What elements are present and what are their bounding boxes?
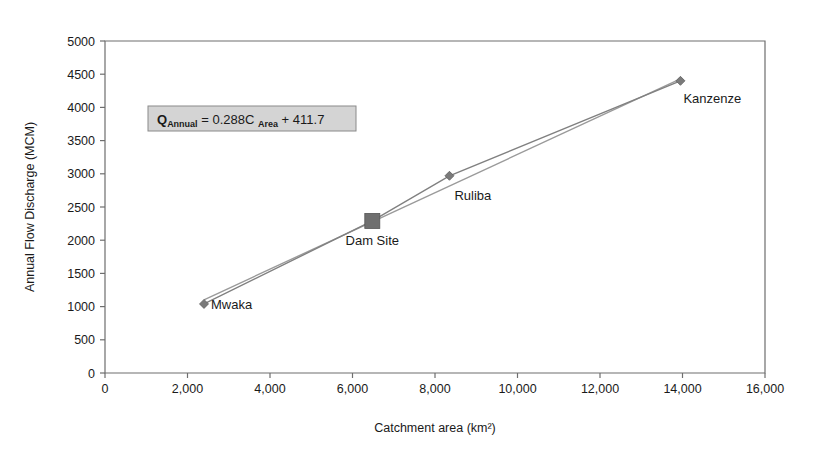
y-tick-label: 4500 [67, 68, 95, 82]
equation-q-subscript: Annual [167, 119, 198, 129]
y-tick-label: 3500 [67, 134, 95, 148]
x-tick-label: 0 [102, 382, 109, 396]
equation-c-subscript: Area [258, 119, 279, 129]
x-tick-label: 16,000 [746, 382, 784, 396]
y-tick-label: 0 [88, 367, 95, 381]
y-tick-label: 2000 [67, 234, 95, 248]
y-tick-label: 1000 [67, 300, 95, 314]
x-axis-title: Catchment area (km²) [374, 421, 496, 435]
marker-diamond [676, 76, 685, 85]
x-tick-label: 8,000 [419, 382, 450, 396]
point-label: Dam Site [346, 233, 399, 248]
x-axis-tick-labels: 02,0004,0006,0008,00010,00012,00014,0001… [102, 382, 785, 396]
plot-frame [105, 41, 765, 373]
y-tick-label: 4000 [67, 101, 95, 115]
marker-diamond [445, 171, 454, 180]
y-axis-tick-labels: 0500100015002000250030003500400045005000 [67, 35, 95, 381]
y-axis-ticks [100, 41, 105, 373]
y-tick-label: 3000 [67, 167, 95, 181]
equation-body: = 0.288C [198, 112, 258, 127]
y-tick-label: 500 [74, 333, 95, 347]
plot-frame-rect [105, 41, 765, 373]
marker-square [365, 213, 380, 228]
point-label: Ruliba [454, 188, 492, 203]
x-tick-label: 14,000 [663, 382, 701, 396]
equation-annotation: QAnnual = 0.288C Area + 411.7 [148, 106, 356, 131]
chart-container: 0500100015002000250030003500400045005000… [0, 0, 824, 452]
marker-diamond [200, 299, 209, 308]
y-axis-title: Annual Flow Discharge (MCM) [23, 122, 37, 292]
equation-tail: + 411.7 [278, 112, 328, 127]
point-label: Kanzenze [683, 91, 741, 106]
chart-canvas: 0500100015002000250030003500400045005000… [0, 0, 824, 452]
y-tick-label: 5000 [67, 35, 95, 49]
y-tick-label: 1500 [67, 267, 95, 281]
y-tick-label: 2500 [67, 201, 95, 215]
x-tick-label: 12,000 [581, 382, 619, 396]
x-axis-ticks [105, 373, 765, 378]
equation-q: Q [157, 112, 167, 127]
x-tick-label: 10,000 [498, 382, 536, 396]
x-tick-label: 2,000 [172, 382, 203, 396]
point-label: Mwaka [211, 297, 253, 312]
x-tick-label: 6,000 [337, 382, 368, 396]
x-tick-label: 4,000 [254, 382, 285, 396]
